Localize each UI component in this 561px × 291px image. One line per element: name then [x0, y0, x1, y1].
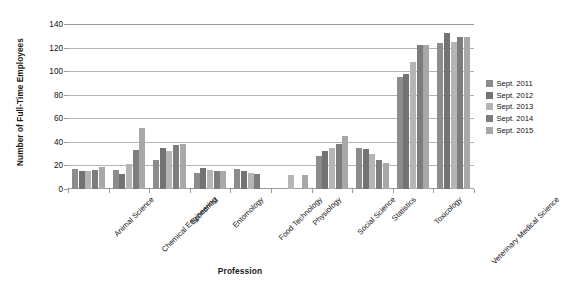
legend-label: Sept. 2013 [497, 102, 534, 111]
bar [464, 37, 470, 189]
bar [397, 77, 403, 189]
x-tick-mark [433, 189, 434, 193]
x-axis-label: Veterinary Medical Science [489, 195, 560, 266]
y-tick-label: 120 [35, 48, 63, 49]
y-tick-label: 80 [35, 95, 63, 96]
legend-swatch [486, 80, 493, 87]
legend-item: Sept. 2012 [486, 90, 552, 102]
y-tick-label: 100 [35, 71, 63, 72]
x-tick-mark [109, 189, 110, 193]
bar [92, 170, 98, 189]
bar [410, 62, 416, 189]
bar [113, 170, 119, 189]
bar [133, 150, 139, 189]
bar [180, 144, 186, 189]
bar [437, 43, 443, 189]
bar [200, 168, 206, 189]
bar-group [149, 24, 190, 189]
bar [139, 128, 145, 189]
legend-item: Sept. 2014 [486, 113, 552, 125]
x-axis-label: Animal Science [113, 195, 156, 238]
legend-swatch [486, 92, 493, 99]
bar [457, 37, 463, 189]
legend-item: Sept. 2011 [486, 78, 552, 90]
bar [451, 42, 457, 189]
bar [363, 149, 369, 189]
x-tick-mark [230, 189, 231, 193]
legend-item: Sept. 2015 [486, 124, 552, 136]
bar [383, 163, 389, 189]
bar [302, 175, 308, 189]
y-tick-label: 60 [35, 118, 63, 119]
bar [220, 171, 226, 189]
bar [79, 171, 85, 189]
bar-group [190, 24, 231, 189]
bar [207, 170, 213, 189]
bar-group [352, 24, 393, 189]
bar [234, 169, 240, 189]
legend-swatch [486, 115, 493, 122]
bar-group [230, 24, 271, 189]
bar [214, 171, 220, 189]
legend-item: Sept. 2013 [486, 101, 552, 113]
bar [403, 74, 409, 190]
x-tick-mark [190, 189, 191, 193]
y-tick-label: 40 [35, 142, 63, 143]
bar-group [393, 24, 434, 189]
legend-swatch [486, 103, 493, 110]
x-tick-mark [474, 189, 475, 193]
x-tick-mark [393, 189, 394, 193]
bar [153, 160, 159, 189]
bar [99, 167, 105, 189]
bar [444, 33, 450, 189]
bar-group [312, 24, 353, 189]
bar [369, 154, 375, 189]
bar [336, 144, 342, 189]
bar [342, 136, 348, 189]
bar [241, 171, 247, 189]
bar [329, 148, 335, 189]
y-tick-label: 0 [35, 189, 63, 190]
bar-group [68, 24, 109, 189]
legend-label: Sept. 2011 [497, 79, 533, 88]
legend-swatch [486, 127, 493, 134]
bar [356, 148, 362, 189]
x-axis-title: Profession [0, 266, 480, 276]
legend-label: Sept. 2015 [497, 126, 534, 135]
legend-label: Sept. 2014 [497, 114, 534, 123]
bar [85, 171, 91, 189]
x-tick-mark [68, 189, 69, 193]
x-axis-label: Economist [189, 195, 220, 226]
legend-label: Sept. 2012 [497, 91, 534, 100]
x-tick-mark [312, 189, 313, 193]
bar [322, 151, 328, 189]
bar [166, 151, 172, 189]
x-tick-mark [271, 189, 272, 193]
y-tick-label: 140 [35, 24, 63, 25]
chart-legend: Sept. 2011Sept. 2012Sept. 2013Sept. 2014… [486, 78, 552, 136]
bar [173, 145, 179, 189]
bar [254, 174, 260, 189]
bar-group [433, 24, 474, 189]
bar [417, 45, 423, 189]
plot-area: 020406080100120140 [68, 24, 474, 189]
bar [160, 148, 166, 189]
bar [72, 169, 78, 189]
bar-group [109, 24, 150, 189]
bar [316, 156, 322, 189]
bar [119, 174, 125, 189]
x-axis-label: Toxicology [432, 195, 463, 226]
x-axis-label: Entomology [231, 195, 266, 230]
x-tick-mark [149, 189, 150, 193]
bar [288, 175, 294, 189]
bar-group [271, 24, 312, 189]
y-axis-title: Number of Full-Time Employees [14, 14, 28, 190]
bar [126, 164, 132, 189]
bar [194, 173, 200, 190]
bar [248, 173, 254, 190]
x-tick-mark [352, 189, 353, 193]
bar [376, 160, 382, 189]
y-tick-label: 20 [35, 165, 63, 166]
bar [423, 45, 429, 189]
